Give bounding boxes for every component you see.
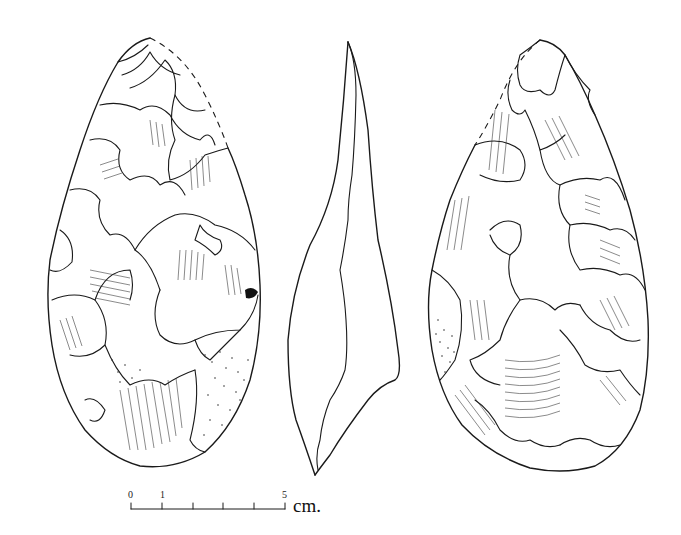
scale-label-zero: 0 [128, 489, 133, 500]
scale-bar [131, 503, 285, 509]
hand-axe-figure: 0 1 5 cm. [0, 0, 681, 535]
scale-label-five: 5 [282, 489, 287, 500]
hand-axe-profile [288, 42, 399, 475]
cortex-stipple [111, 351, 249, 436]
scale-label-one: 1 [160, 489, 165, 500]
scale-unit-label: cm. [293, 495, 321, 517]
hand-axe-face-b [429, 40, 649, 471]
hand-axe-face-a [48, 38, 260, 467]
